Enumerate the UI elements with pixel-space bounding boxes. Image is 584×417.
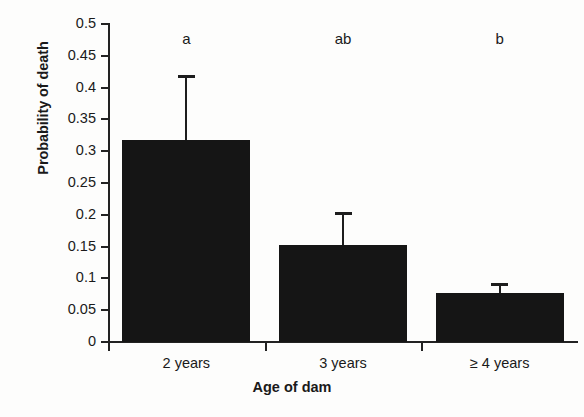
x-axis-title: Age of dam <box>0 379 584 395</box>
y-tick-label: 0.5 <box>0 14 96 33</box>
x-category-label: 2 years <box>163 355 211 371</box>
error-bar-cap <box>491 283 508 286</box>
bar <box>279 245 407 342</box>
y-tick-label: 0.2 <box>0 205 96 224</box>
bar <box>436 293 564 342</box>
significance-label: ab <box>335 30 352 47</box>
x-tick-mark <box>265 343 267 351</box>
y-tick-label: 0.25 <box>0 173 96 192</box>
x-category-label: 3 years <box>319 355 367 371</box>
bar-chart-figure: Probability of death 00.050.10.150.20.25… <box>0 0 584 417</box>
significance-label: b <box>495 30 503 47</box>
y-tick-label: 0.05 <box>0 300 96 319</box>
y-tick-label: 0.45 <box>0 46 96 65</box>
y-tick-label: 0.15 <box>0 237 96 256</box>
plot-area <box>108 24 578 342</box>
error-bar-cap <box>335 212 352 215</box>
y-tick-label: 0.1 <box>0 268 96 287</box>
y-tick-label: 0.4 <box>0 78 96 97</box>
error-bar-stem <box>342 212 344 246</box>
bar <box>122 140 250 342</box>
y-tick-label: 0.3 <box>0 141 96 160</box>
x-tick-mark <box>421 343 423 351</box>
y-tick-label: 0.35 <box>0 109 96 128</box>
y-tick-label: 0 <box>0 332 96 351</box>
significance-label: a <box>182 30 190 47</box>
error-bar-stem <box>185 75 187 141</box>
x-tick-mark <box>108 343 110 351</box>
error-bar-cap <box>178 75 195 78</box>
x-category-label: ≥ 4 years <box>470 355 530 371</box>
